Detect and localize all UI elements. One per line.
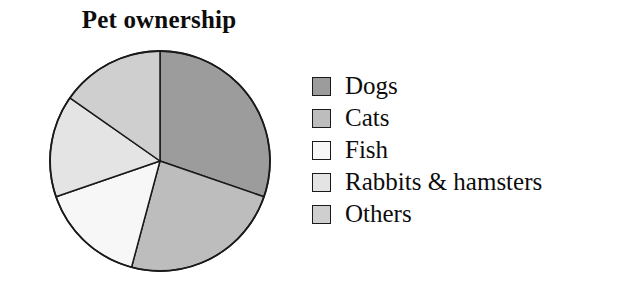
page-title: Pet ownership: [0, 6, 318, 34]
legend-item: Others: [312, 198, 632, 230]
legend-item: Dogs: [312, 70, 632, 102]
pie-chart-svg: [49, 50, 271, 272]
legend-swatch-icon: [312, 109, 331, 128]
legend-item-label: Cats: [345, 105, 389, 131]
pie-chart-plot-area: [49, 50, 271, 272]
legend-swatch-icon: [312, 77, 331, 96]
pie-slice-group: [50, 51, 270, 271]
legend-item-label: Dogs: [345, 73, 398, 99]
legend-swatch-icon: [312, 173, 331, 192]
legend-item-label: Fish: [345, 137, 388, 163]
chart-legend: DogsCatsFishRabbits & hamstersOthers: [312, 70, 632, 230]
legend-item: Cats: [312, 102, 632, 134]
pie-chart-figure: Pet ownership DogsCatsFishRabbits & hams…: [0, 0, 637, 290]
legend-swatch-icon: [312, 141, 331, 160]
legend-item: Rabbits & hamsters: [312, 166, 632, 198]
legend-item-label: Others: [345, 201, 412, 227]
legend-item: Fish: [312, 134, 632, 166]
legend-item-label: Rabbits & hamsters: [345, 169, 542, 195]
legend-swatch-icon: [312, 205, 331, 224]
